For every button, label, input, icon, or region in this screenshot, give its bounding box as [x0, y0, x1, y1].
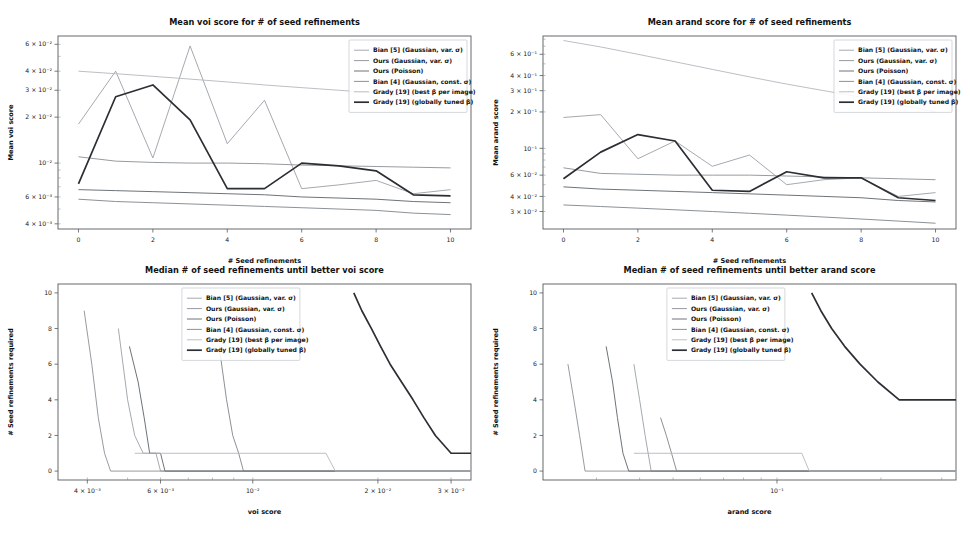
chart-title: Median # of seed refinements until bette…: [624, 265, 876, 275]
y-tick-label: 4 × 10⁻²: [510, 193, 537, 200]
y-tick-label: 3 × 10⁻²: [25, 86, 52, 93]
y-tick-label: 8: [48, 325, 52, 332]
chart-svg: Mean arand score for # of seed refinemen…: [485, 14, 970, 269]
panel-mean-voi: Mean voi score for # of seed refinements…: [0, 14, 485, 269]
data-series-line: [563, 187, 935, 202]
y-tick-label: 4: [48, 396, 52, 403]
y-axis-label: # Seed refinements required: [492, 328, 500, 436]
data-series-line: [129, 346, 471, 471]
y-tick-label: 2 × 10⁻¹: [510, 108, 537, 115]
x-tick-label: 2 × 10⁻²: [365, 487, 392, 494]
panel-median-voi: Median # of seed refinements until bette…: [0, 262, 485, 520]
data-series-line: [219, 346, 471, 471]
x-tick-label: 10: [932, 236, 940, 243]
data-series-line: [563, 135, 935, 201]
y-tick-label: 2: [48, 432, 52, 439]
y-tick-label: 0: [533, 467, 537, 474]
legend-label: Ours (Gaussian, var. σ): [373, 57, 452, 64]
data-series-line: [634, 364, 956, 471]
figure-canvas: Mean voi score for # of seed refinements…: [0, 0, 970, 538]
legend-label: Bian [5] (Gaussian, var. σ): [691, 294, 781, 301]
data-series-line: [563, 205, 935, 223]
y-tick-label: 0: [48, 467, 52, 474]
x-tick-label: 3 × 10⁻²: [438, 487, 465, 494]
x-axis-label: arand score: [728, 508, 772, 516]
data-series-line: [354, 293, 471, 453]
x-tick-label: 4: [710, 236, 714, 243]
chart-svg: Median # of seed refinements until bette…: [0, 262, 485, 520]
data-series-line: [563, 168, 935, 180]
x-tick-label: 6: [300, 236, 304, 243]
y-axis-label: Mean arand score: [492, 99, 500, 166]
legend-label: Bian [4] (Gaussian, const. σ): [373, 78, 472, 85]
data-series-line: [606, 346, 956, 471]
y-tick-label: 2 × 10⁻²: [25, 113, 52, 120]
y-tick-label: 3 × 10⁻²: [510, 208, 537, 215]
x-tick-label: 0: [561, 236, 565, 243]
panel-mean-arand: Mean arand score for # of seed refinemen…: [485, 14, 970, 269]
data-series-line: [634, 453, 956, 471]
legend-label: Grady [19] (best β per image): [858, 88, 961, 96]
y-tick-label: 4: [533, 396, 537, 403]
chart-title: Median # of seed refinements until bette…: [145, 265, 384, 275]
y-tick-label: 10: [44, 289, 52, 296]
y-tick-label: 4 × 10⁻²: [25, 67, 52, 74]
data-series-line: [78, 199, 450, 214]
data-series-line: [661, 418, 956, 471]
legend-label: Grady [19] (best β per image): [373, 88, 476, 96]
chart-legend: Bian [5] (Gaussian, var. σ)Ours (Gaussia…: [182, 288, 309, 360]
x-tick-label: 8: [374, 236, 378, 243]
x-tick-label: 10⁻¹: [770, 487, 784, 494]
chart-legend: Bian [5] (Gaussian, var. σ)Ours (Gaussia…: [834, 40, 961, 112]
y-tick-label: 6 × 10⁻²: [510, 171, 537, 178]
x-tick-label: 4 × 10⁻³: [74, 487, 101, 494]
chart-title: Mean arand score for # of seed refinemen…: [648, 17, 852, 27]
chart-svg: Median # of seed refinements until bette…: [485, 262, 970, 520]
x-tick-label: 10: [447, 236, 455, 243]
y-tick-label: 4 × 10⁻³: [25, 220, 52, 227]
legend-label: Grady [19] (globally tuned β): [206, 346, 306, 354]
legend-label: Ours (Gaussian, var. σ): [206, 305, 285, 312]
x-tick-label: 6 × 10⁻³: [147, 487, 174, 494]
legend-label: Bian [5] (Gaussian, var. σ): [206, 294, 296, 301]
x-tick-label: 10⁻²: [246, 487, 260, 494]
data-series-line: [568, 364, 956, 471]
legend-label: Bian [4] (Gaussian, const. σ): [858, 78, 957, 85]
legend-label: Ours (Gaussian, var. σ): [691, 305, 770, 312]
legend-label: Grady [19] (best β per image): [206, 336, 309, 344]
legend-label: Ours (Poisson): [858, 67, 909, 74]
y-tick-label: 2: [533, 432, 537, 439]
data-series-line: [563, 115, 935, 197]
y-tick-label: 10⁻²: [38, 159, 52, 166]
y-tick-label: 6 × 10⁻²: [25, 40, 52, 47]
legend-label: Bian [4] (Gaussian, const. σ): [691, 326, 790, 333]
y-tick-label: 6: [48, 360, 52, 367]
y-tick-label: 8: [533, 325, 537, 332]
legend-label: Grady [19] (globally tuned β): [858, 98, 958, 106]
y-tick-label: 6 × 10⁻³: [25, 193, 52, 200]
legend-label: Ours (Poisson): [206, 315, 257, 322]
legend-label: Ours (Gaussian, var. σ): [858, 57, 937, 64]
y-tick-label: 3 × 10⁻¹: [510, 87, 537, 94]
chart-svg: Mean voi score for # of seed refinements…: [0, 14, 485, 269]
x-tick-label: 2: [636, 236, 640, 243]
data-series-line: [78, 190, 450, 203]
data-series-line: [78, 157, 450, 168]
y-axis-label: # Seed refinements required: [7, 328, 15, 436]
y-axis-label: Mean voi score: [7, 104, 15, 160]
y-tick-label: 6: [533, 360, 537, 367]
chart-legend: Bian [5] (Gaussian, var. σ)Ours (Gaussia…: [349, 40, 476, 112]
chart-title: Mean voi score for # of seed refinements: [169, 17, 360, 27]
panel-median-arand: Median # of seed refinements until bette…: [485, 262, 970, 520]
legend-label: Ours (Poisson): [373, 67, 424, 74]
y-tick-label: 6 × 10⁻¹: [510, 50, 537, 57]
legend-label: Bian [5] (Gaussian, var. σ): [373, 46, 463, 53]
x-tick-label: 8: [859, 236, 863, 243]
data-series-line: [135, 453, 471, 471]
chart-legend: Bian [5] (Gaussian, var. σ)Ours (Gaussia…: [667, 288, 794, 360]
legend-label: Bian [5] (Gaussian, var. σ): [858, 46, 948, 53]
y-tick-label: 10: [529, 289, 537, 296]
legend-label: Grady [19] (best β per image): [691, 336, 794, 344]
x-axis-label: voi score: [248, 508, 282, 516]
legend-label: Ours (Poisson): [691, 315, 742, 322]
